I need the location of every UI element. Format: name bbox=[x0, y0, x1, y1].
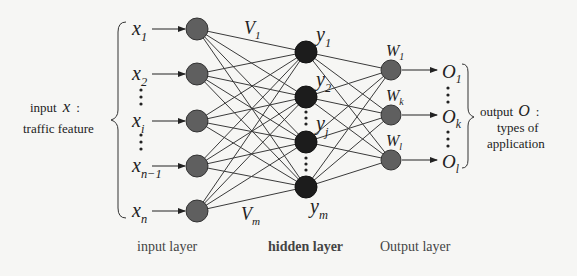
hidden-ellipsis-dot bbox=[304, 168, 307, 171]
input-node bbox=[186, 155, 208, 177]
input-description-line1: inputx: bbox=[30, 97, 80, 116]
edge-hidden-3-output-2 bbox=[306, 160, 391, 187]
hidden-label-y: ym bbox=[308, 195, 328, 222]
edge-input-4-hidden-2 bbox=[197, 142, 306, 211]
input-label-x: x1 bbox=[131, 17, 147, 44]
input-ellipsis-dot bbox=[139, 147, 142, 150]
output-brace bbox=[462, 64, 474, 168]
hidden-ellipsis-dot bbox=[304, 156, 307, 159]
output-label-o: O1 bbox=[442, 61, 462, 86]
hidden-layer-label: hidden layer bbox=[268, 239, 343, 254]
output-description-line3: application bbox=[487, 136, 545, 151]
edge-input-3-hidden-0 bbox=[197, 52, 306, 166]
weight-label-vm: Vm bbox=[241, 204, 260, 227]
output-ellipsis-dot bbox=[446, 144, 449, 147]
input-label-x: x2 bbox=[131, 62, 147, 89]
output-node bbox=[381, 105, 401, 125]
weight-label-w: Wl bbox=[386, 132, 402, 152]
input-description-line2: traffic feature bbox=[23, 121, 94, 136]
output-ellipsis-dot bbox=[446, 137, 449, 140]
hidden-node bbox=[295, 86, 317, 108]
edge-input-1-hidden-1 bbox=[197, 74, 306, 97]
hidden-label-y: y2 bbox=[314, 68, 331, 95]
hidden-node bbox=[295, 41, 317, 63]
weight-label-w: W1 bbox=[386, 42, 404, 62]
nodes bbox=[186, 18, 401, 222]
hidden-ellipsis-dot bbox=[304, 116, 307, 119]
input-ellipsis-dot bbox=[139, 140, 142, 143]
hidden-ellipsis-dot bbox=[304, 162, 307, 165]
hidden-label-y: y1 bbox=[314, 23, 331, 50]
input-brace bbox=[111, 22, 126, 218]
output-ellipsis-dot bbox=[446, 100, 449, 103]
output-node bbox=[381, 60, 401, 80]
input-ellipsis-dot bbox=[139, 95, 142, 98]
input-label-x: xn−1 bbox=[131, 154, 162, 181]
output-node bbox=[381, 150, 401, 170]
neural-network-diagram: inputx: traffic feature outputO: types o… bbox=[0, 0, 577, 276]
input-label-x: xn bbox=[131, 199, 147, 226]
hidden-ellipsis-dot bbox=[304, 122, 307, 125]
weight-label-w: Wk bbox=[386, 87, 404, 107]
output-ellipsis-dot bbox=[446, 93, 449, 96]
input-node bbox=[186, 110, 208, 132]
output-description-line2: types of bbox=[497, 120, 539, 135]
input-node bbox=[186, 18, 208, 40]
output-layer-label: Output layer bbox=[380, 239, 451, 254]
hidden-node bbox=[295, 131, 317, 153]
input-node bbox=[186, 200, 208, 222]
input-ellipsis-dot bbox=[139, 102, 142, 105]
connections bbox=[197, 29, 391, 211]
output-ellipsis-dot bbox=[446, 130, 449, 133]
input-layer-label: input layer bbox=[137, 239, 198, 254]
output-ellipsis-dot bbox=[446, 86, 449, 89]
output-description-line1: outputO: bbox=[480, 102, 539, 119]
edge-input-4-hidden-1 bbox=[197, 97, 306, 211]
weight-label-v1: V1 bbox=[244, 18, 261, 41]
hidden-label-y: yj bbox=[314, 112, 329, 139]
edge-input-1-hidden-0 bbox=[197, 52, 306, 74]
hidden-ellipsis-dot bbox=[304, 110, 307, 113]
input-ellipsis-dot bbox=[139, 88, 142, 91]
output-label-o: Ol bbox=[442, 151, 460, 176]
output-label-o: Ok bbox=[442, 106, 462, 131]
input-label-x: xi bbox=[131, 109, 145, 136]
input-node bbox=[186, 63, 208, 85]
